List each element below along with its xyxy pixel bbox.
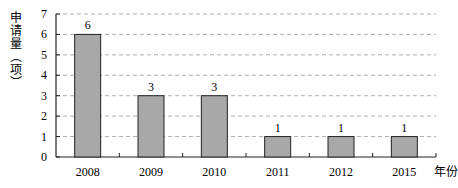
y-tick-label: 5 (41, 48, 47, 62)
x-tick-label: 2009 (139, 165, 163, 179)
bar (265, 137, 291, 157)
bar-value-label: 3 (148, 80, 154, 94)
bar-value-label: 1 (338, 121, 344, 135)
y-axis-label: 申请量（项） (7, 11, 21, 89)
x-tick-label: 2008 (76, 165, 100, 179)
y-tick-label: 0 (41, 150, 47, 164)
bar (328, 137, 354, 157)
y-tick-label: 7 (41, 7, 47, 21)
x-tick-label: 2011 (266, 165, 290, 179)
bar-value-label: 6 (85, 18, 91, 32)
x-tick-label: 2012 (329, 165, 353, 179)
y-tick-label: 4 (41, 68, 47, 82)
x-tick-label: 2015 (392, 165, 416, 179)
bar-value-label: 1 (401, 121, 407, 135)
bar-value-label: 3 (211, 80, 217, 94)
bar (391, 137, 417, 157)
y-tick-label: 3 (41, 89, 47, 103)
y-tick-label: 1 (41, 130, 47, 144)
y-tick-label: 6 (41, 27, 47, 41)
bar-chart: 01234567620083200932010120111201212015年份… (0, 0, 458, 188)
chart-canvas: 01234567620083200932010120111201212015年份… (0, 0, 458, 188)
bar (201, 96, 227, 157)
bar (138, 96, 164, 157)
bar (75, 34, 101, 157)
x-tick-label: 2010 (202, 165, 226, 179)
x-axis-label: 年份 (434, 165, 458, 179)
bar-value-label: 1 (275, 121, 281, 135)
y-tick-label: 2 (41, 109, 47, 123)
